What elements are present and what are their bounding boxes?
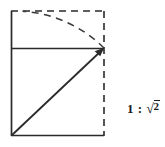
ratio-separator: : (138, 101, 143, 116)
ratio-prefix: 1 (127, 101, 134, 116)
ratio-annotation: 1 : √2 (127, 101, 161, 116)
diagonal-arrow (12, 48, 105, 136)
diagonal-line (12, 51, 102, 136)
geometric-figure: 1 : √2 (0, 0, 165, 147)
unit-square-solid (11, 11, 104, 136)
extension-rectangle-dashed (11, 11, 104, 136)
radicand-value: 2 (154, 100, 160, 112)
square-root-expression: √2 (146, 101, 160, 116)
geometry-canvas (0, 0, 165, 147)
radius-sweep-arc (23, 11, 105, 48)
